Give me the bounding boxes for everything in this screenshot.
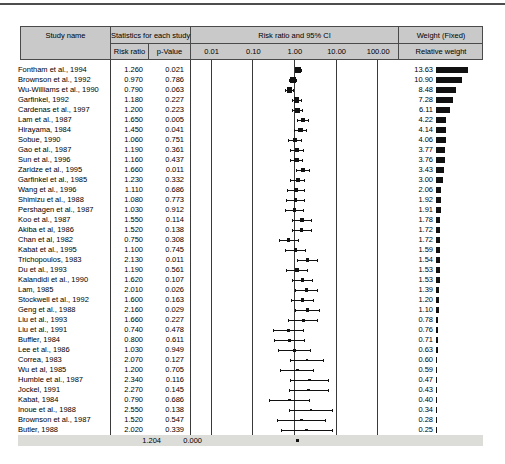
axis-tick-10.00: 10.00: [327, 43, 346, 60]
study-p-value: 0.163: [144, 295, 184, 305]
whisker-end-cap: [328, 389, 329, 392]
study-p-value: 0.912: [144, 205, 184, 215]
whisker-end-cap: [290, 359, 291, 362]
whisker-end-cap: [289, 389, 290, 392]
top-rule: [0, 3, 505, 5]
relative-weight-bar: [436, 197, 441, 203]
point-estimate-marker: [295, 67, 301, 73]
study-name: Geng et al., 1988: [18, 305, 76, 315]
study-weight-value: 0.60: [390, 355, 433, 365]
study-row: Jockel, 19912.2700.1450.43: [0, 385, 505, 395]
relative-weight-bar: [436, 377, 437, 383]
study-risk-ratio: 1.030: [100, 345, 143, 355]
point-estimate-marker: [300, 419, 303, 422]
column-header-relative-weight: Relative weight: [399, 43, 483, 60]
study-weight-value: 1.53: [390, 265, 433, 275]
point-estimate-marker: [301, 278, 305, 282]
study-risk-ratio: 2.070: [100, 355, 143, 365]
study-name: Brownson et al., 1987: [18, 415, 91, 425]
study-weight-value: 1.54: [390, 255, 433, 265]
study-weight-value: 1.10: [390, 305, 433, 315]
study-risk-ratio: 2.340: [100, 375, 143, 385]
study-row: Pershagen et al., 19871.0300.9121.91: [0, 205, 505, 215]
study-risk-ratio: 1.200: [100, 105, 143, 115]
whisker-end-cap: [295, 309, 296, 312]
study-weight-value: 3.43: [390, 165, 433, 175]
point-estimate-marker: [294, 158, 298, 162]
study-name: Stockwell et al., 1992: [18, 295, 89, 305]
study-p-value: 0.361: [144, 145, 184, 155]
study-row: Liu et al., 19931.6600.2270.78: [0, 315, 505, 325]
whisker-end-cap: [292, 229, 293, 232]
study-name: Inoue et al., 1988: [18, 405, 76, 415]
relative-weight-bar: [436, 427, 437, 433]
relative-weight-bar: [436, 357, 437, 363]
study-risk-ratio: 1.620: [100, 275, 143, 285]
relative-weight-bar: [436, 177, 443, 183]
summary-point-marker: [296, 439, 299, 442]
study-weight-value: 0.76: [390, 325, 433, 335]
study-name: Sobue, 1990: [18, 135, 61, 145]
summary-row: 1.204 0.000: [18, 435, 483, 446]
study-risk-ratio: 1.650: [100, 115, 143, 125]
study-weight-value: 3.76: [390, 155, 433, 165]
study-name: Butler, 1988: [18, 425, 58, 435]
study-p-value: 0.611: [144, 335, 184, 345]
column-header-risk-ratio: Risk ratio: [111, 43, 148, 60]
study-risk-ratio: 1.260: [100, 65, 143, 75]
study-name: Sun et al., 1996: [18, 155, 71, 165]
study-row: Garfinkel, 19921.1800.2277.28: [0, 95, 505, 105]
study-row: Du et al., 19931.1900.5611.53: [0, 265, 505, 275]
study-row: Correa, 19832.0700.1270.60: [0, 355, 505, 365]
study-weight-value: 1.20: [390, 295, 433, 305]
whisker-end-cap: [273, 329, 274, 332]
whisker-end-cap: [311, 229, 312, 232]
study-name: Cardenas et al., 1997: [18, 105, 90, 115]
study-weight-value: 1.39: [390, 285, 433, 295]
point-estimate-marker: [293, 138, 297, 142]
whisker-end-cap: [291, 299, 292, 302]
point-estimate-marker: [293, 349, 296, 352]
study-weight-value: 0.59: [390, 365, 433, 375]
column-header-statistics-group: Statistics for each study: [111, 27, 190, 44]
whisker-end-cap: [292, 99, 293, 102]
study-risk-ratio: 1.160: [100, 155, 143, 165]
relative-weight-bar: [436, 217, 440, 223]
study-weight-value: 8.48: [390, 85, 433, 95]
relative-weight-bar: [436, 107, 450, 113]
whisker-end-cap: [317, 319, 318, 322]
study-risk-ratio: 2.550: [100, 405, 143, 415]
whisker-end-cap: [287, 189, 288, 192]
study-row: Kabat, 19840.7900.6860.40: [0, 395, 505, 405]
study-p-value: 0.308: [144, 235, 184, 245]
study-name: Kabat et al., 1995: [18, 245, 77, 255]
study-row: Brownson et al., 19920.9700.78610.90: [0, 75, 505, 85]
study-p-value: 0.332: [144, 175, 184, 185]
relative-weight-bar: [436, 387, 437, 393]
study-risk-ratio: 1.030: [100, 205, 143, 215]
axis-tick-1.00: 1.00: [288, 43, 303, 60]
whisker-end-cap: [285, 209, 286, 212]
relative-weight-bar: [436, 347, 438, 353]
study-p-value: 0.686: [144, 185, 184, 195]
point-estimate-marker: [300, 228, 304, 232]
study-row: Lam et al., 19871.6500.0054.22: [0, 115, 505, 125]
relative-weight-bar: [436, 87, 456, 93]
relative-weight-bar: [436, 137, 446, 143]
study-risk-ratio: 1.190: [100, 145, 143, 155]
study-name: Garfinkel, 1992: [18, 95, 69, 105]
summary-p-value: 0.000: [162, 435, 202, 446]
study-row: Brownson et al., 19871.5200.5470.28: [0, 415, 505, 425]
study-name: Shimizu et al., 1988: [18, 195, 84, 205]
study-name: Lam, 1985: [18, 285, 53, 295]
whisker-end-cap: [279, 239, 280, 242]
study-row: Butler, 19882.0200.3390.25: [0, 425, 505, 435]
study-name: Garfinkel et al., 1985: [18, 175, 87, 185]
study-p-value: 0.223: [144, 105, 184, 115]
study-name: Jockel, 1991: [18, 385, 60, 395]
study-risk-ratio: 0.740: [100, 325, 143, 335]
relative-weight-bar: [436, 237, 440, 243]
whisker-end-cap: [278, 349, 279, 352]
study-weight-value: 1.59: [390, 245, 433, 255]
study-weight-value: 6.11: [390, 105, 433, 115]
